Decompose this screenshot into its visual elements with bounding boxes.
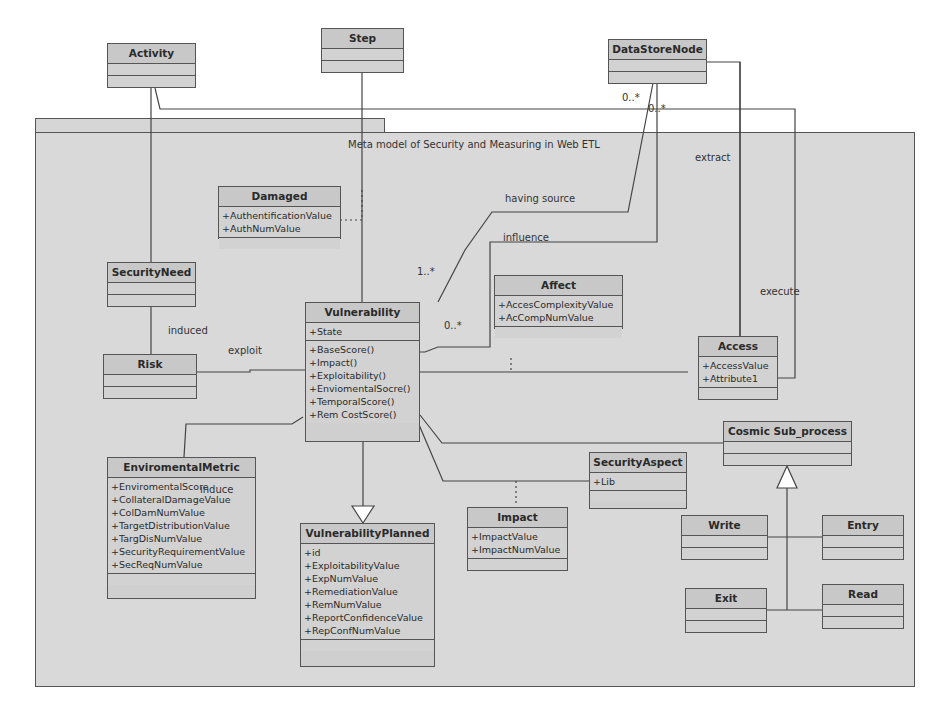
class-operations xyxy=(699,388,777,399)
class-attributes: +AccessValue +Attribute1 xyxy=(699,357,777,388)
class-attributes: +AccesComplexityValue +AcCompNumValue xyxy=(495,296,622,327)
class-cosmic-subprocess[interactable]: Cosmic Sub_process xyxy=(723,421,852,466)
class-attributes xyxy=(108,283,195,295)
attribute: +ColDamNumValue xyxy=(111,506,252,519)
attribute: +AccessValue xyxy=(702,359,774,372)
class-name: SecurityNeed xyxy=(108,263,195,283)
class-attributes: +AuthentificationValue +AuthNumValue xyxy=(219,207,340,238)
class-name: EnviromentalMetric xyxy=(108,458,255,478)
class-operations xyxy=(108,574,255,585)
attribute: +AccesComplexityValue xyxy=(498,298,619,311)
class-activity[interactable]: Activity xyxy=(107,43,196,88)
association-label-having-source: having source xyxy=(505,193,575,204)
class-attributes xyxy=(823,605,903,617)
class-name: Cosmic Sub_process xyxy=(724,422,851,442)
class-attributes xyxy=(108,64,195,76)
attribute: +ReportConfidenceValue xyxy=(304,611,431,624)
association-label-execute: execute xyxy=(760,286,800,297)
class-securityneed[interactable]: SecurityNeed xyxy=(107,262,196,307)
class-securityaspect[interactable]: SecurityAspect +Lib xyxy=(589,452,687,509)
attribute: +id xyxy=(304,546,431,559)
association-label-exploit: exploit xyxy=(228,345,262,356)
attribute: +State xyxy=(309,325,416,338)
association-label-extract: extract xyxy=(695,152,730,163)
class-name: Affect xyxy=(495,276,622,296)
class-affect[interactable]: Affect +AccesComplexityValue +AcCompNumV… xyxy=(494,275,623,329)
class-operations xyxy=(219,238,340,249)
attribute: +ImpactNumValue xyxy=(471,543,564,556)
class-attributes xyxy=(609,60,706,72)
class-operations xyxy=(108,295,195,306)
class-operations: +BaseScore() +Impact() +Exploitability()… xyxy=(306,341,419,423)
attribute: +SecReqNumValue xyxy=(111,558,252,571)
operation: +BaseScore() xyxy=(309,343,416,356)
class-name: Access xyxy=(699,337,777,357)
class-name: SecurityAspect xyxy=(590,453,686,473)
class-operations xyxy=(468,559,567,570)
attribute: +RemediationValue xyxy=(304,585,431,598)
attribute: +AuthentificationValue xyxy=(222,209,337,222)
class-attributes xyxy=(682,536,767,548)
class-vulnerability[interactable]: Vulnerability +State +BaseScore() +Impac… xyxy=(305,302,420,442)
class-name: Damaged xyxy=(219,187,340,207)
multiplicity-label: 0..* xyxy=(622,92,640,103)
class-name: Read xyxy=(823,585,903,605)
attribute: +RemNumValue xyxy=(304,598,431,611)
class-name: VulnerabilityPlanned xyxy=(301,524,434,544)
association-label-influence: influence xyxy=(503,232,549,243)
class-attributes xyxy=(686,609,766,621)
class-operations xyxy=(609,72,706,83)
operation: +Exploitability() xyxy=(309,369,416,382)
class-vulnerabilityplanned[interactable]: VulnerabilityPlanned +id +Exploitability… xyxy=(300,523,435,667)
attribute: +RepConfNumValue xyxy=(304,624,431,637)
uml-class-diagram: Meta model of Security and Measuring in … xyxy=(0,0,946,717)
class-operations xyxy=(590,491,686,502)
class-name: Activity xyxy=(108,44,195,64)
operation: +Impact() xyxy=(309,356,416,369)
attribute: +SecurityRequirementValue xyxy=(111,545,252,558)
class-risk[interactable]: Risk xyxy=(103,354,197,399)
attribute: +ExpNumValue xyxy=(304,572,431,585)
attribute: +Attribute1 xyxy=(702,372,774,385)
class-damaged[interactable]: Damaged +AuthentificationValue +AuthNumV… xyxy=(218,186,341,239)
association-label-induced: induced xyxy=(168,325,208,336)
attribute: +TargDisNumValue xyxy=(111,532,252,545)
class-operations xyxy=(823,548,903,559)
class-entry[interactable]: Entry xyxy=(822,515,904,560)
class-name: Exit xyxy=(686,589,766,609)
class-access[interactable]: Access +AccessValue +Attribute1 xyxy=(698,336,778,400)
class-operations xyxy=(823,617,903,628)
class-operations xyxy=(301,640,434,651)
multiplicity-label: 0..* xyxy=(444,320,462,331)
multiplicity-label: 0..* xyxy=(648,103,666,114)
attribute: +ExploitabilityValue xyxy=(304,559,431,572)
operation: +Rem CostScore() xyxy=(309,408,416,421)
class-name: DataStoreNode xyxy=(609,40,706,60)
class-attributes xyxy=(823,536,903,548)
class-operations xyxy=(104,387,196,398)
attribute: +AcCompNumValue xyxy=(498,311,619,324)
attribute: +TargetDistributionValue xyxy=(111,519,252,532)
class-name: Impact xyxy=(468,508,567,528)
class-attributes xyxy=(724,442,851,454)
operation: +TemporalScore() xyxy=(309,395,416,408)
class-attributes: +id +ExploitabilityValue +ExpNumValue +R… xyxy=(301,544,434,640)
class-exit[interactable]: Exit xyxy=(685,588,767,633)
class-attributes xyxy=(322,49,403,61)
class-name: Step xyxy=(322,29,403,49)
class-attributes xyxy=(104,375,196,387)
class-operations xyxy=(108,76,195,87)
class-step[interactable]: Step xyxy=(321,28,404,73)
class-operations xyxy=(686,621,766,632)
class-attributes: +State xyxy=(306,323,419,341)
class-impact[interactable]: Impact +ImpactValue +ImpactNumValue xyxy=(467,507,568,571)
class-datastorenode[interactable]: DataStoreNode xyxy=(608,39,707,84)
class-operations xyxy=(724,454,851,465)
class-enviromentalmetric[interactable]: EnviromentalMetric +EnviromentalScore +C… xyxy=(107,457,256,599)
class-operations xyxy=(682,548,767,559)
attribute: +AuthNumValue xyxy=(222,222,337,235)
class-read[interactable]: Read xyxy=(822,584,904,629)
class-name: Entry xyxy=(823,516,903,536)
class-write[interactable]: Write xyxy=(681,515,768,560)
multiplicity-label: 1..* xyxy=(417,266,435,277)
